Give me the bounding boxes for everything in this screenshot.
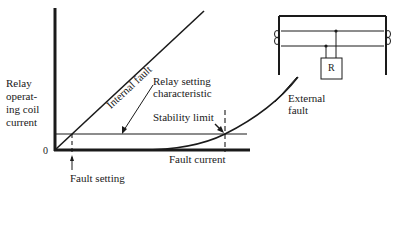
x-axis-label: Fault current (169, 153, 226, 165)
y-axis-label: Relay operat- ing coil current (6, 77, 54, 129)
y-axis-label-line: Relay (6, 77, 54, 90)
relay-label: R (328, 62, 335, 74)
external-fault-label-line2: fault (288, 104, 308, 116)
relay-setting-label-line1: Relay setting (153, 75, 211, 87)
relay-setting-label-line2: characteristic (153, 87, 212, 99)
y-axis-label-line: operat- (6, 90, 54, 103)
origin-label: 0 (43, 145, 48, 157)
y-axis-label-line: ing coil (6, 103, 54, 116)
fault-setting-label: Fault setting (70, 172, 125, 184)
y-axis-label-line: current (6, 116, 54, 129)
external-fault-label-line1: External (288, 92, 325, 104)
fault-setting-arrowhead (70, 155, 74, 161)
stability-limit-label: Stability limit (153, 111, 214, 123)
